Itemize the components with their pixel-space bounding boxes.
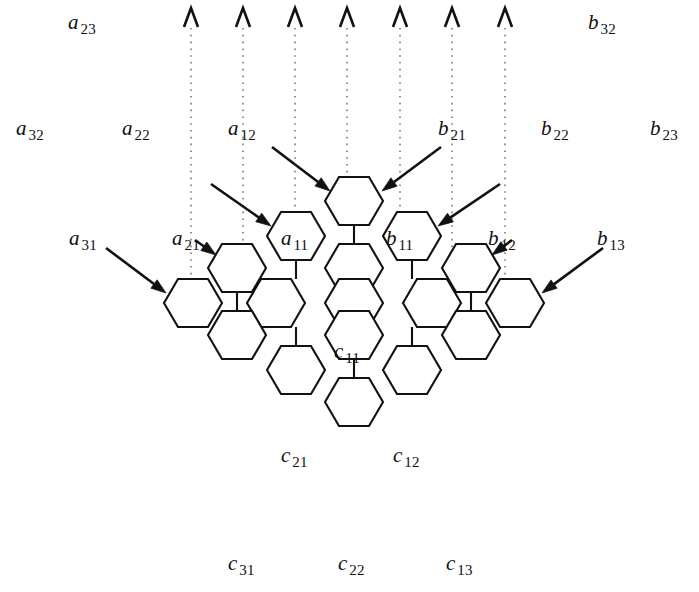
label-a31: a31 — [69, 228, 95, 249]
label-b13-symbol: b — [597, 226, 608, 250]
label-b32-symbol: b — [588, 10, 599, 34]
label-a23-subscript: 23 — [81, 21, 96, 37]
cell-label-a11: a11 — [281, 228, 306, 249]
label-b13: b13 — [597, 228, 623, 249]
label-c22-symbol: c — [338, 551, 347, 575]
hex-bottom[interactable] — [325, 378, 383, 426]
hex-row5-1[interactable] — [267, 346, 325, 394]
arrow-b21-shaft — [391, 147, 441, 185]
up-arrow-tick-5 — [445, 8, 459, 27]
label-c12-symbol: c — [393, 443, 402, 467]
label-c31: c31 — [228, 553, 253, 574]
up-arrow-tick-1 — [236, 8, 250, 27]
label-a23-symbol: a — [68, 10, 79, 34]
cell-label-b11-symbol: b — [386, 226, 397, 250]
arrow-a31-shaft — [106, 248, 157, 287]
label-a21: a21 — [172, 228, 198, 249]
up-arrow-tick-3 — [340, 8, 354, 27]
label-b21: b21 — [438, 118, 464, 139]
arrow-a21-head — [201, 242, 216, 255]
label-c21-subscript: 21 — [292, 454, 307, 470]
label-c21-symbol: c — [281, 443, 290, 467]
arrow-b13-shaft — [551, 248, 603, 287]
up-arrow-tick-6 — [498, 8, 512, 27]
label-a21-subscript: 21 — [185, 237, 200, 253]
label-a12: a12 — [228, 118, 254, 139]
label-b22-symbol: b — [541, 116, 552, 140]
cell-label-a11-symbol: a — [281, 226, 292, 250]
cell-label-b11-subscript: 11 — [399, 237, 413, 253]
hex-top[interactable] — [325, 177, 383, 225]
label-a22: a22 — [122, 118, 148, 139]
hexagon-layer — [164, 177, 544, 426]
label-a12-subscript: 12 — [241, 127, 256, 143]
label-b13-subscript: 13 — [610, 237, 625, 253]
figure-canvas — [0, 0, 699, 592]
label-b22-subscript: 22 — [554, 127, 569, 143]
label-a32: a32 — [16, 118, 42, 139]
arrow-b13-head — [542, 280, 557, 293]
label-a22-symbol: a — [122, 116, 133, 140]
label-b32-subscript: 32 — [601, 21, 616, 37]
cell-label-a11-subscript: 11 — [294, 237, 308, 253]
arrow-a11-head — [256, 213, 271, 226]
label-c12-subscript: 12 — [404, 454, 419, 470]
label-b32: b32 — [588, 12, 614, 33]
tick-layer — [184, 8, 512, 27]
label-a22-subscript: 22 — [135, 127, 150, 143]
label-a23: a23 — [68, 12, 94, 33]
arrow-b11-head — [438, 213, 453, 226]
arrow-a11-shaft — [211, 184, 262, 220]
label-c13: c13 — [446, 553, 471, 574]
label-b21-symbol: b — [438, 116, 449, 140]
label-b12: b12 — [488, 228, 514, 249]
label-c31-symbol: c — [228, 551, 237, 575]
label-b21-subscript: 21 — [451, 127, 466, 143]
cell-label-c11-symbol: c — [334, 339, 343, 363]
arrow-b11-shaft — [447, 184, 500, 220]
hex-row3-1[interactable] — [164, 279, 222, 327]
cell-label-c11: c11 — [334, 341, 358, 362]
figure-root: a23b32a32a22a12b21b22b23a31a21b12b13 c21… — [0, 0, 699, 592]
label-a21-symbol: a — [172, 226, 183, 250]
label-b22: b22 — [541, 118, 567, 139]
cell-label-b11: b11 — [386, 228, 411, 249]
label-c21: c21 — [281, 445, 306, 466]
hex-row3-5[interactable] — [486, 279, 544, 327]
label-b23: b23 — [650, 118, 676, 139]
label-a31-subscript: 31 — [82, 237, 97, 253]
up-arrow-tick-4 — [393, 8, 407, 27]
label-a31-symbol: a — [69, 226, 80, 250]
arrow-a12-shaft — [272, 147, 321, 184]
label-c31-subscript: 31 — [239, 562, 254, 578]
label-c13-subscript: 13 — [457, 562, 472, 578]
label-a32-subscript: 32 — [29, 127, 44, 143]
label-a12-symbol: a — [228, 116, 239, 140]
up-arrow-tick-2 — [288, 8, 302, 27]
label-c22-subscript: 22 — [349, 562, 364, 578]
label-c13-symbol: c — [446, 551, 455, 575]
label-c12: c12 — [393, 445, 418, 466]
label-b23-symbol: b — [650, 116, 661, 140]
label-c22: c22 — [338, 553, 363, 574]
hex-row4-3[interactable] — [442, 311, 500, 359]
label-b12-symbol: b — [488, 226, 499, 250]
label-a32-symbol: a — [16, 116, 27, 140]
label-b23-subscript: 23 — [663, 127, 678, 143]
label-b12-subscript: 12 — [501, 237, 516, 253]
hex-row5-2[interactable] — [383, 346, 441, 394]
up-arrow-tick-0 — [184, 8, 198, 27]
hex-row4-1[interactable] — [208, 311, 266, 359]
cell-label-c11-subscript: 11 — [345, 350, 359, 366]
